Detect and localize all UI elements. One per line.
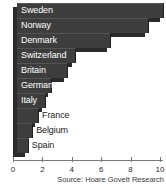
bar-france — [17, 108, 39, 123]
x-tick — [131, 157, 132, 162]
x-tick — [42, 157, 43, 162]
x-tick-label: 6 — [99, 165, 103, 174]
x-tick-label: 4 — [70, 165, 74, 174]
bar-label-france: France — [42, 109, 69, 122]
x-tick — [101, 157, 102, 162]
bar-row — [13, 108, 35, 123]
x-tick-label: 10 — [156, 165, 165, 174]
x-tick-label: 2 — [40, 165, 44, 174]
bar-label-britain: Britain — [21, 64, 46, 77]
x-tick — [160, 157, 161, 162]
bar-spain — [17, 138, 29, 153]
source-note: Source: Hoare Govett Research — [57, 175, 164, 184]
bar-belgium — [17, 123, 33, 138]
x-tick-label: 8 — [128, 165, 132, 174]
plot-area: SwedenNorwayDenmarkSwitzerlandBritainGer… — [0, 0, 166, 160]
bar-label-spain: Spain — [32, 139, 55, 152]
bar-row — [13, 138, 25, 153]
bar-chart: SwedenNorwayDenmarkSwitzerlandBritainGer… — [0, 0, 166, 185]
bar-label-italy: Italy — [21, 94, 37, 107]
bar-label-sweden: Sweden — [21, 4, 53, 17]
bar-label-denmark: Denmark — [21, 34, 57, 47]
x-tick — [13, 157, 14, 162]
bar-row — [13, 123, 29, 138]
bar-label-germany: Germany — [21, 79, 57, 92]
bar-label-belgium: Belgium — [36, 124, 68, 137]
x-axis-line — [13, 160, 163, 161]
bar-label-switzerland: Switzerland — [21, 49, 66, 62]
x-tick-label: 0 — [11, 165, 15, 174]
x-tick — [72, 157, 73, 162]
bar-label-norway: Norway — [21, 19, 51, 32]
